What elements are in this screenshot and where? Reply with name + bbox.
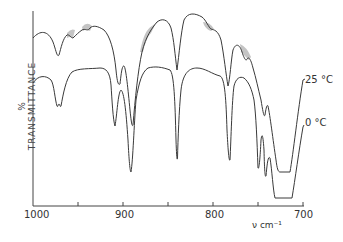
x-tick-label-800: 800: [205, 209, 224, 220]
series-label-0C: 0 °C: [305, 117, 327, 128]
leader-0C: [303, 125, 304, 127]
x-tick-label-1000: 1000: [24, 209, 49, 220]
ir-spectrum-chart: [0, 0, 343, 242]
x-axis-unit-label: ν cm⁻¹: [252, 220, 282, 230]
curve-0C: [33, 67, 303, 198]
x-tick-label-900: 900: [115, 209, 134, 220]
series-label-25C: 25 °C: [305, 74, 333, 85]
x-tick-label-700: 700: [294, 209, 313, 220]
axes: [33, 11, 304, 206]
curve-25C: [33, 14, 303, 172]
y-axis-label: % TRANSMITTANCE: [17, 61, 37, 151]
